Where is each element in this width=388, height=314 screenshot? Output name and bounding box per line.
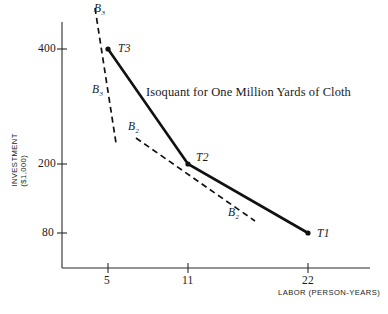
x-axis-title: LABOR (PERSON-YEARS) [278,289,380,297]
isoquant-line [108,49,308,233]
budget-label-b3-lower: B3 [92,84,103,96]
data-point-t2 [185,161,190,166]
y-axis-title: INVESTMENT ($1,000) [10,133,28,186]
budget-label-b2-lower: B2 [228,207,239,219]
budget-line-b3 [95,8,116,143]
data-label-t1: T1 [317,228,330,240]
budget-label-b2-upper-sub: 2 [135,127,139,135]
budget-label-b3-lower-base: B [92,83,99,95]
y-tick-label-400: 400 [38,43,56,55]
chart-container: 400 200 80 5 11 22 T3 T2 T1 B3 B3 B2 B2 … [0,0,388,314]
x-tick-label-5: 5 [104,275,110,287]
budget-label-b2-lower-sub: 2 [235,213,239,221]
data-label-t2: T2 [196,152,209,164]
data-label-t3: T3 [118,43,131,55]
budget-label-b3-upper: B3 [94,3,105,15]
x-tick-label-11: 11 [182,275,193,287]
y-axis-title-wrapper: INVESTMENT ($1,000) [12,100,26,220]
budget-label-b3-upper-base: B [94,2,101,14]
chart-plot-area [0,0,388,314]
budget-label-b2-upper: B2 [128,121,139,133]
budget-label-b2-upper-base: B [128,120,135,132]
data-point-t3 [105,46,110,51]
chart-annotation: Isoquant for One Million Yards of Cloth [146,86,351,99]
budget-label-b2-lower-base: B [228,206,235,218]
data-point-t1 [305,230,310,235]
y-tick-label-80: 80 [42,227,54,239]
x-tick-label-22: 22 [302,275,314,287]
budget-label-b3-lower-sub: 3 [99,90,103,98]
y-tick-label-200: 200 [38,158,56,170]
budget-label-b3-upper-sub: 3 [101,9,105,17]
